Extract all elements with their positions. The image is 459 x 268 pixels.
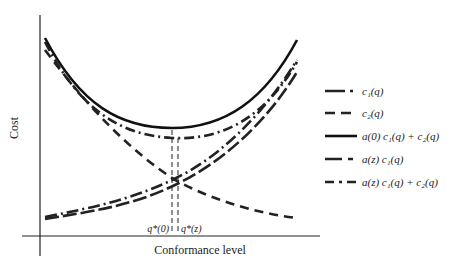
legend-label: c₂(q) — [362, 107, 384, 120]
cost-chart: Cost Conformance level q*(0) q*(z) c₁(q)… — [0, 0, 459, 268]
legend-label: a(0) c₁(q) + c₂(q) — [362, 130, 439, 143]
legend-label: a(z) c₁(q) — [362, 153, 404, 166]
legend-label: a(z) c₁(q) + c₂(q) — [362, 176, 438, 189]
legend: c₁(q) c₂(q) a(0) c₁(q) + c₂(q) a(z) c₁(q… — [325, 85, 439, 189]
q-star-0-label: q*(0) — [147, 223, 169, 235]
legend-item-az-c1-plus-c2: a(z) c₁(q) + c₂(q) — [325, 176, 438, 189]
legend-item-c1: c₁(q) — [325, 85, 384, 98]
legend-item-a0-c1-plus-c2: a(0) c₁(q) + c₂(q) — [325, 130, 439, 143]
legend-item-c2: c₂(q) — [325, 107, 384, 120]
x-axis-label: Conformance level — [154, 243, 246, 257]
y-axis-label: Cost — [7, 116, 21, 139]
series-a0-c1-plus-c2 — [45, 38, 297, 128]
q-star-z-label: q*(z) — [181, 223, 202, 235]
legend-label: c₁(q) — [362, 85, 384, 98]
legend-item-az-c1: a(z) c₁(q) — [325, 153, 404, 166]
series-c2 — [45, 50, 297, 218]
